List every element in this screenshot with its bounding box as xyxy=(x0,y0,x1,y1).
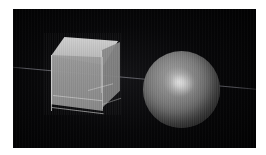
cube-edge-mid-vertical xyxy=(102,57,103,109)
cube-object xyxy=(44,33,122,115)
image-frame xyxy=(0,0,266,155)
cube-face-front xyxy=(51,55,103,111)
render-viewport xyxy=(13,9,256,148)
cube-edge-left-vertical xyxy=(51,55,52,111)
sphere-rim-shading xyxy=(143,51,220,128)
sphere-object xyxy=(143,51,220,128)
